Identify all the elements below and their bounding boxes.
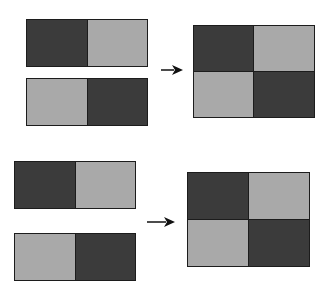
right-arrow-icon bbox=[160, 64, 184, 76]
dark-cell bbox=[15, 162, 75, 208]
light-cell bbox=[15, 234, 75, 280]
dark-cell bbox=[254, 72, 314, 118]
bottom-input-bar-2 bbox=[14, 233, 136, 281]
light-cell bbox=[249, 173, 310, 220]
dark-cell bbox=[249, 220, 310, 267]
bottom-output-square bbox=[187, 172, 310, 267]
light-cell bbox=[75, 162, 135, 208]
dark-cell bbox=[188, 173, 249, 220]
top-input-bar-1 bbox=[26, 19, 148, 67]
light-cell bbox=[254, 26, 314, 72]
top-input-bar-2 bbox=[26, 78, 148, 126]
dark-cell bbox=[27, 20, 87, 66]
light-cell bbox=[194, 72, 254, 118]
bottom-input-bar-1 bbox=[14, 161, 136, 209]
right-arrow-icon bbox=[146, 216, 176, 228]
light-cell bbox=[188, 220, 249, 267]
dark-cell bbox=[87, 79, 147, 125]
top-output-square bbox=[193, 25, 315, 118]
dark-cell bbox=[75, 234, 135, 280]
light-cell bbox=[87, 20, 147, 66]
light-cell bbox=[27, 79, 87, 125]
dark-cell bbox=[194, 26, 254, 72]
